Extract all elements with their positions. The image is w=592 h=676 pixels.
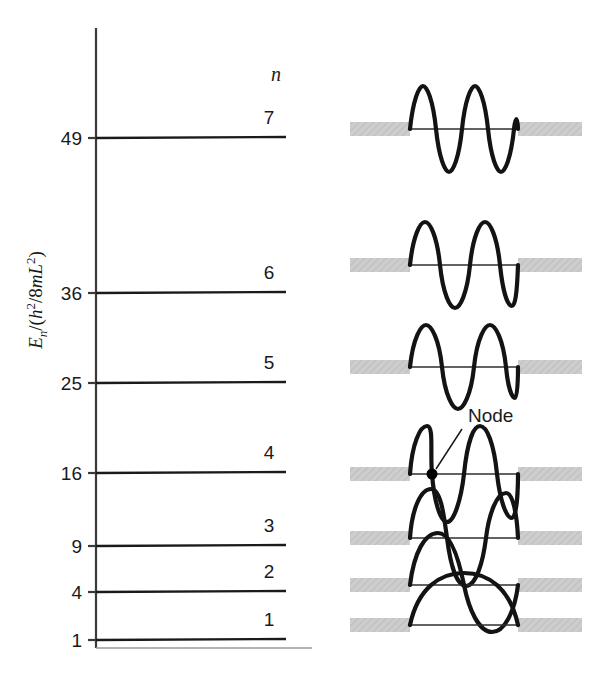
left-wall-5 [350, 360, 410, 374]
right-wall-1 [518, 618, 582, 632]
level-line-3 [96, 545, 286, 546]
energy-level-7: 49 7 [61, 107, 286, 149]
wave-2 [410, 533, 518, 632]
wavefunction-panel-2 [350, 533, 582, 632]
column-header-n: n [271, 63, 281, 85]
tick-label-36: 36 [61, 283, 82, 304]
energy-level-1: 1 1 [71, 609, 286, 651]
right-wall-5 [518, 360, 582, 374]
level-line-1 [96, 639, 286, 640]
energy-level-6: 36 6 [61, 262, 286, 304]
left-wall-6 [350, 258, 410, 272]
right-wall-2 [518, 578, 582, 592]
level-n-label-7: 7 [264, 107, 275, 128]
wavefunction-panel-5 [350, 325, 582, 409]
level-n-label-2: 2 [264, 561, 275, 582]
tick-label-16: 16 [61, 463, 82, 484]
svg-text:En/(h2/8mL2): En/(h2/8mL2) [23, 251, 50, 350]
right-wall-4 [518, 467, 582, 481]
figure-page: En/(h2/8mL2) n 49 7 36 6 2 [0, 0, 592, 676]
level-line-2 [96, 591, 286, 592]
level-line-6 [96, 292, 286, 293]
tick-label-49: 49 [61, 128, 82, 149]
wavefunction-panel-6 [350, 222, 582, 308]
tick-label-9: 9 [71, 536, 82, 557]
energy-level-2: 4 2 [71, 561, 286, 603]
right-wall-6 [518, 258, 582, 272]
energy-level-3: 9 3 [71, 515, 286, 557]
energy-level-figure: En/(h2/8mL2) n 49 7 36 6 2 [0, 0, 592, 676]
node-dot [427, 469, 438, 480]
left-wall-1 [350, 618, 410, 632]
level-n-label-3: 3 [264, 515, 275, 536]
tick-label-1: 1 [71, 630, 82, 651]
y-axis-group [96, 28, 312, 648]
right-wall-3 [518, 531, 582, 545]
wave-7-tail [514, 119, 518, 129]
level-n-label-6: 6 [264, 262, 275, 283]
node-label: Node [468, 405, 513, 426]
node-leader-line [436, 429, 462, 469]
level-n-label-1: 1 [264, 609, 275, 630]
level-line-4 [96, 472, 286, 473]
wavefunction-panel-4: Node [350, 405, 582, 522]
level-n-label-4: 4 [264, 442, 275, 463]
energy-levels-group: 49 7 36 6 25 5 16 [61, 107, 286, 651]
y-axis-title: En/(h2/8mL2) [23, 251, 50, 350]
tick-label-25: 25 [61, 373, 82, 394]
level-line-5 [96, 382, 286, 383]
left-wall-7 [350, 122, 410, 136]
left-wall-4 [350, 467, 410, 481]
wavefunction-panel-7 [350, 86, 582, 172]
tick-label-4: 4 [71, 582, 82, 603]
left-wall-3 [350, 531, 410, 545]
level-n-label-5: 5 [264, 352, 275, 373]
energy-level-4: 16 4 [61, 442, 286, 484]
left-wall-2 [350, 578, 410, 592]
energy-level-5: 25 5 [61, 352, 286, 394]
right-wall-7 [518, 122, 582, 136]
level-line-7 [96, 137, 286, 138]
